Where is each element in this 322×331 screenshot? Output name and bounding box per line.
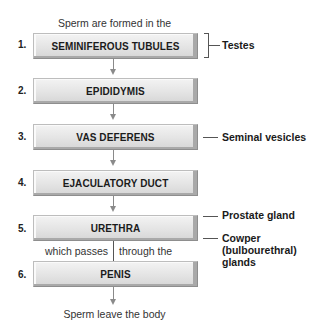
step-number-3: 3.	[18, 131, 26, 142]
top-caption: Sperm are formed in the	[33, 17, 196, 29]
label-cowper-glands: Cowper (bulbourethral) glands	[222, 232, 297, 268]
step-box-epididymis: EPIDIDYMIS	[33, 78, 198, 104]
mid-caption-right: through the	[119, 245, 172, 257]
cowper-line-1: Cowper	[222, 232, 297, 244]
step-number-1: 1.	[18, 39, 26, 50]
step-label: SEMINIFEROUS TUBULES	[51, 41, 179, 52]
arrow-down-icon	[110, 114, 116, 120]
label-seminal-vesicles: Seminal vesicles	[222, 131, 306, 143]
step-box-ejaculatory-duct: EJACULATORY DUCT	[33, 170, 198, 196]
testes-leader-line	[208, 45, 220, 46]
connector-line	[113, 58, 114, 69]
prostate-leader-line	[203, 216, 218, 217]
step-label: VAS DEFERENS	[76, 132, 154, 143]
step-label: URETHRA	[91, 223, 141, 234]
step-number-5: 5.	[18, 223, 26, 234]
cowper-leader-line	[203, 238, 218, 239]
bottom-caption: Sperm leave the body	[33, 308, 196, 320]
step-number-2: 2.	[18, 85, 26, 96]
cowper-line-3: glands	[222, 256, 297, 268]
step-box-urethra: URETHRA	[33, 215, 198, 241]
arrow-down-icon	[110, 160, 116, 166]
label-testes: Testes	[222, 39, 255, 51]
seminal-vesicles-leader-line	[203, 137, 218, 138]
step-label: EPIDIDYMIS	[86, 86, 145, 97]
step-label: PENIS	[100, 269, 131, 280]
step-box-seminiferous-tubules: SEMINIFEROUS TUBULES	[33, 33, 198, 59]
step-number-6: 6.	[18, 269, 26, 280]
connector-line	[113, 241, 114, 261]
arrow-down-icon	[110, 69, 116, 75]
label-prostate-gland: Prostate gland	[222, 209, 295, 221]
step-number-4: 4.	[18, 177, 26, 188]
cowper-line-2: (bulbourethral)	[222, 244, 297, 256]
step-box-vas-deferens: VAS DEFERENS	[33, 124, 198, 150]
step-box-penis: PENIS	[33, 261, 198, 287]
mid-caption-left: which passes	[40, 245, 108, 257]
step-label: EJACULATORY DUCT	[63, 178, 169, 189]
arrow-down-icon	[110, 206, 116, 212]
arrow-down-icon	[110, 299, 116, 305]
